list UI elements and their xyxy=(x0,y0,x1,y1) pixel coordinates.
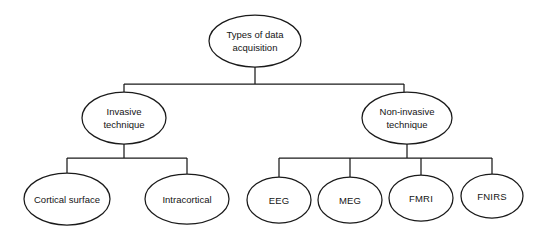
node-cortical-surface-shape xyxy=(24,173,110,225)
node-meg-shape xyxy=(318,177,382,223)
node-fnirs-shape xyxy=(461,174,523,218)
node-fmri-shape xyxy=(389,175,453,221)
node-fnirs[interactable]: FNIRS xyxy=(461,174,523,218)
node-cortical-surface[interactable]: Cortical surface xyxy=(24,173,110,225)
node-non-invasive-technique[interactable]: Non-invasive technique xyxy=(362,92,452,144)
node-invasive-technique[interactable]: Invasive technique xyxy=(82,92,166,144)
node-root-shape xyxy=(209,15,301,67)
node-meg[interactable]: MEG xyxy=(318,177,382,223)
node-intracortical[interactable]: Intracortical xyxy=(145,174,229,224)
node-eeg[interactable]: EEG xyxy=(247,177,311,223)
node-non-invasive-technique-shape xyxy=(362,92,452,144)
node-eeg-shape xyxy=(247,177,311,223)
node-root[interactable]: Types of data acquisition xyxy=(209,15,301,67)
tree-canvas: Types of data acquisition Invasive techn… xyxy=(0,0,546,236)
data-acquisition-tree-diagram: Types of data acquisition Invasive techn… xyxy=(0,0,546,236)
node-invasive-technique-shape xyxy=(82,92,166,144)
node-fmri[interactable]: FMRI xyxy=(389,175,453,221)
node-intracortical-shape xyxy=(145,174,229,224)
